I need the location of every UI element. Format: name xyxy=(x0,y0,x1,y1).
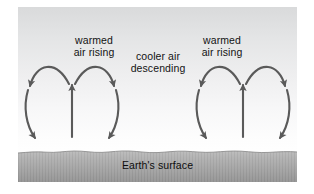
top-arc-left-outer xyxy=(30,67,69,86)
convection-diagram: warmed air rising cooler air descending … xyxy=(0,0,314,194)
descending-arrow-right-inner xyxy=(197,90,206,138)
label-earths-surface: Earth's surface xyxy=(18,159,297,171)
airflow-arrows xyxy=(18,7,297,153)
top-arc-right-outer xyxy=(246,67,285,86)
diagram-panel: warmed air rising cooler air descending … xyxy=(18,7,297,182)
descending-arrow-far-right xyxy=(280,90,289,138)
top-arc-left-inner xyxy=(75,67,114,86)
ground-region: Earth's surface xyxy=(18,146,297,182)
sky-region: warmed air rising cooler air descending … xyxy=(18,7,297,153)
top-arc-right-inner xyxy=(201,67,240,86)
descending-arrow-left-inner xyxy=(109,90,118,138)
descending-arrow-far-left xyxy=(26,90,35,138)
label-warmed-air-rising-right: warmed air rising xyxy=(174,35,270,59)
